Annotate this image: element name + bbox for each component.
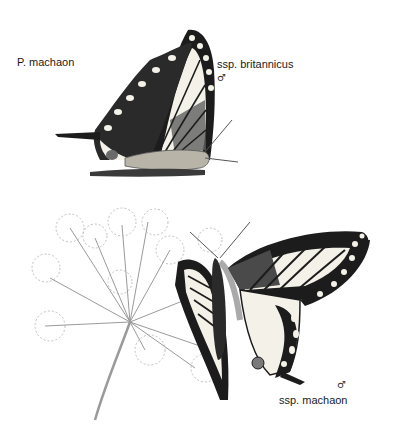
lower-male-symbol: ♂ <box>337 379 346 390</box>
upper-male-symbol: ♂ <box>217 72 226 83</box>
illustration-plate: P. machaon ssp. britannicus ♂ ♂ ssp. mac… <box>0 0 399 428</box>
species-label: P. machaon <box>17 56 74 68</box>
umbellifer-plant <box>45 222 200 420</box>
lower-butterfly-machaon <box>175 222 370 400</box>
upper-subspecies-label: ssp. britannicus <box>217 58 293 70</box>
upper-butterfly-britannicus <box>55 30 238 177</box>
lower-subspecies-label: ssp. machaon <box>279 394 347 406</box>
